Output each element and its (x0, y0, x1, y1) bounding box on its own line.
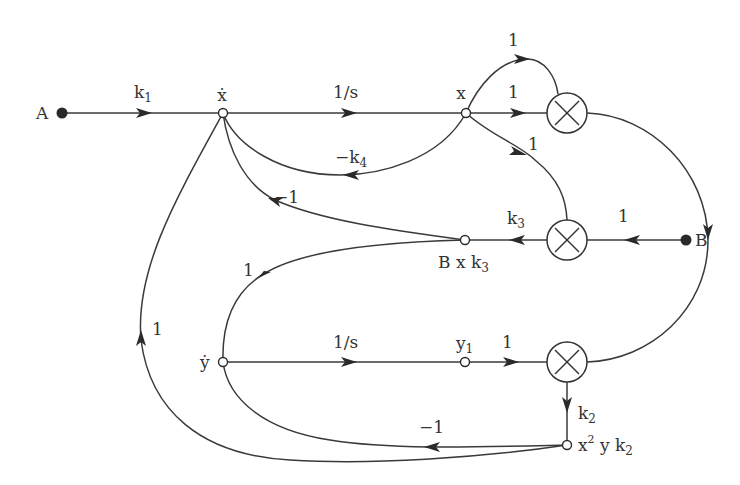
multiplier-bottom (547, 342, 587, 382)
label-y1: y1 (455, 333, 473, 356)
gain-neg-k4: −k4 (335, 147, 368, 170)
node-Bxk3 (461, 236, 470, 245)
gain-1-over-s-x: 1/s (333, 82, 358, 102)
node-y1 (461, 358, 470, 367)
gain-k1: k1 (134, 82, 152, 105)
label-x-dot: ẋ (217, 85, 227, 105)
multiplier-top (547, 93, 587, 133)
edge-x-to-multmid (466, 113, 567, 220)
arrow-icon (514, 54, 530, 64)
node-x-dot (219, 109, 228, 118)
gain-1-to-ydot: 1 (243, 260, 254, 280)
label-y-dot: ẏ (199, 352, 210, 372)
label-x2yk2: x2 y k2 (578, 433, 633, 458)
label-A: A (35, 103, 49, 123)
multiplier-middle (547, 220, 587, 260)
signal-flow-graph: A B ẋ x B x k3 ẏ y1 x2 y k2 k1 1/s 1 1 1… (0, 0, 740, 485)
gain-1-straight: 1 (508, 82, 519, 102)
gain-1-from-B: 1 (618, 206, 629, 226)
gain-neg1-to-xdot: −1 (274, 187, 299, 207)
label-Bxk3: B x k3 (438, 252, 489, 275)
node-y-dot (219, 358, 228, 367)
gain-k3: k3 (507, 208, 525, 231)
gain-1-to-multmid: 1 (528, 134, 539, 154)
gain-1-y1: 1 (502, 332, 513, 352)
label-x: x (456, 83, 466, 103)
node-x (462, 109, 471, 118)
edge-x2yk2-to-ydot (223, 362, 567, 447)
gain-neg1-to-ydot: −1 (419, 417, 444, 437)
source-node-A (57, 108, 68, 119)
arrow-icon (258, 266, 271, 278)
label-B: B (695, 230, 708, 250)
gain-1-left-loop: 1 (152, 319, 163, 339)
node-x2yk2 (563, 441, 572, 450)
gain-k2: k2 (578, 403, 596, 426)
edge-Bxk3-to-xdot (223, 113, 465, 240)
gain-1-over-s-y: 1/s (333, 332, 358, 352)
gain-1-upper: 1 (508, 30, 519, 50)
source-node-B (681, 235, 692, 246)
